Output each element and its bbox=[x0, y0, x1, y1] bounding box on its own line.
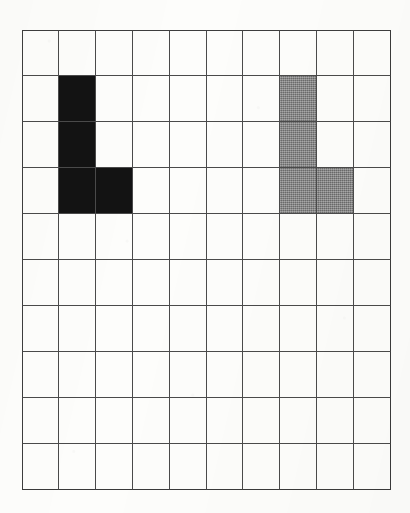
grid-cell[interactable] bbox=[243, 260, 280, 306]
grid-cell[interactable] bbox=[133, 122, 170, 168]
grid-cell[interactable] bbox=[22, 352, 59, 398]
grid-cell[interactable] bbox=[133, 30, 170, 76]
grid-cell[interactable] bbox=[354, 444, 391, 490]
grid-cell[interactable] bbox=[317, 168, 354, 214]
grid-cell[interactable] bbox=[207, 214, 244, 260]
grid-cell[interactable] bbox=[280, 30, 317, 76]
grid-cell[interactable] bbox=[243, 306, 280, 352]
grid-cell[interactable] bbox=[133, 76, 170, 122]
grid-cell[interactable] bbox=[354, 168, 391, 214]
grid-cell[interactable] bbox=[207, 352, 244, 398]
grid-cell[interactable] bbox=[96, 30, 133, 76]
grid-cell[interactable] bbox=[170, 214, 207, 260]
grid-cell[interactable] bbox=[96, 168, 133, 214]
grid-cell[interactable] bbox=[243, 398, 280, 444]
grid-cell[interactable] bbox=[354, 214, 391, 260]
grid-cell[interactable] bbox=[59, 214, 96, 260]
grid-cell[interactable] bbox=[133, 444, 170, 490]
grid-cell[interactable] bbox=[59, 122, 96, 168]
grid-cell[interactable] bbox=[59, 168, 96, 214]
grid-cell[interactable] bbox=[170, 444, 207, 490]
grid-cell[interactable] bbox=[317, 260, 354, 306]
grid-cell[interactable] bbox=[280, 122, 317, 168]
grid-cell[interactable] bbox=[133, 260, 170, 306]
grid-cell[interactable] bbox=[207, 30, 244, 76]
grid-cell[interactable] bbox=[207, 260, 244, 306]
grid-cell[interactable] bbox=[22, 444, 59, 490]
grid-cell[interactable] bbox=[96, 122, 133, 168]
grid-cell[interactable] bbox=[243, 352, 280, 398]
grid-cell[interactable] bbox=[96, 352, 133, 398]
grid-cell[interactable] bbox=[243, 168, 280, 214]
grid-cell[interactable] bbox=[207, 306, 244, 352]
grid-cell[interactable] bbox=[207, 76, 244, 122]
grid-cell[interactable] bbox=[243, 444, 280, 490]
grid-cell[interactable] bbox=[317, 214, 354, 260]
grid-cell[interactable] bbox=[317, 76, 354, 122]
grid-cell[interactable] bbox=[280, 76, 317, 122]
grid-cell[interactable] bbox=[96, 76, 133, 122]
grid-cell[interactable] bbox=[133, 214, 170, 260]
grid-cell[interactable] bbox=[280, 444, 317, 490]
grid-cell[interactable] bbox=[59, 398, 96, 444]
grid-cell[interactable] bbox=[96, 214, 133, 260]
grid-cell[interactable] bbox=[207, 168, 244, 214]
grid-cell[interactable] bbox=[243, 30, 280, 76]
grid-cell[interactable] bbox=[133, 398, 170, 444]
grid-cell[interactable] bbox=[243, 122, 280, 168]
grid-cell[interactable] bbox=[170, 30, 207, 76]
grid-cell[interactable] bbox=[96, 260, 133, 306]
grid-cell[interactable] bbox=[59, 260, 96, 306]
grid-cell[interactable] bbox=[317, 122, 354, 168]
grid-cell[interactable] bbox=[280, 398, 317, 444]
grid-cell[interactable] bbox=[170, 260, 207, 306]
grid-cell[interactable] bbox=[170, 122, 207, 168]
grid-cell[interactable] bbox=[96, 398, 133, 444]
grid-cell[interactable] bbox=[317, 398, 354, 444]
grid-cell[interactable] bbox=[317, 30, 354, 76]
grid-cell[interactable] bbox=[280, 260, 317, 306]
grid-cell[interactable] bbox=[59, 306, 96, 352]
grid-cell[interactable] bbox=[317, 306, 354, 352]
grid-cell[interactable] bbox=[22, 214, 59, 260]
grid-cell[interactable] bbox=[243, 214, 280, 260]
grid-cell[interactable] bbox=[354, 122, 391, 168]
grid-cell[interactable] bbox=[59, 76, 96, 122]
grid-cell[interactable] bbox=[22, 306, 59, 352]
grid-cell[interactable] bbox=[317, 444, 354, 490]
grid-cell[interactable] bbox=[170, 76, 207, 122]
grid-cell[interactable] bbox=[207, 444, 244, 490]
grid-cell[interactable] bbox=[354, 306, 391, 352]
grid-cell[interactable] bbox=[22, 30, 59, 76]
grid-cell[interactable] bbox=[170, 398, 207, 444]
grid-cell[interactable] bbox=[243, 76, 280, 122]
grid-cell[interactable] bbox=[317, 352, 354, 398]
grid-cell[interactable] bbox=[59, 30, 96, 76]
grid-cell[interactable] bbox=[22, 398, 59, 444]
grid-cell[interactable] bbox=[280, 352, 317, 398]
grid-cell[interactable] bbox=[133, 352, 170, 398]
grid-cell[interactable] bbox=[354, 352, 391, 398]
grid-cell[interactable] bbox=[59, 444, 96, 490]
grid-cell[interactable] bbox=[280, 168, 317, 214]
grid-cell[interactable] bbox=[354, 398, 391, 444]
grid-cell[interactable] bbox=[133, 168, 170, 214]
grid-cell[interactable] bbox=[22, 122, 59, 168]
grid-cell[interactable] bbox=[207, 398, 244, 444]
grid-cell[interactable] bbox=[133, 306, 170, 352]
grid-cell[interactable] bbox=[170, 168, 207, 214]
grid-cell[interactable] bbox=[22, 260, 59, 306]
grid-cell[interactable] bbox=[354, 76, 391, 122]
grid-cell[interactable] bbox=[96, 306, 133, 352]
grid-cell[interactable] bbox=[280, 214, 317, 260]
grid-cell[interactable] bbox=[22, 168, 59, 214]
grid-cell[interactable] bbox=[354, 260, 391, 306]
grid-cell[interactable] bbox=[280, 306, 317, 352]
grid-cell[interactable] bbox=[96, 444, 133, 490]
grid-cell[interactable] bbox=[59, 352, 96, 398]
grid-cell[interactable] bbox=[354, 30, 391, 76]
grid-cell[interactable] bbox=[170, 352, 207, 398]
grid-cell[interactable] bbox=[207, 122, 244, 168]
grid-cell[interactable] bbox=[22, 76, 59, 122]
grid-cell[interactable] bbox=[170, 306, 207, 352]
